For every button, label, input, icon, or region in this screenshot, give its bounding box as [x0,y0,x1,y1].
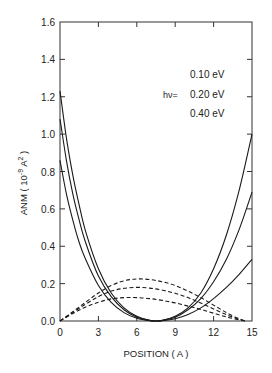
x-tick-label: 0 [57,327,63,338]
legend-entry-3: 0.40 eV [190,108,225,119]
y-tick-label: 0.6 [41,204,55,215]
x-tick-label: 15 [246,327,258,338]
data-series [60,91,252,321]
y-axis-title: ANM ( 10-9 A2 ) [17,151,29,216]
y-title-end: ) [18,151,29,157]
x-tick-label: 3 [96,327,102,338]
y-tick-label: 0.0 [41,316,55,327]
y-tick-label: 1.2 [41,92,55,103]
legend-prefix: hν= [163,90,178,100]
series-dashed-2 [60,287,246,321]
x-tick-label: 12 [208,327,220,338]
legend: 0.10 eV hν= 0.20 eV 0.40 eV [163,69,225,119]
y-title-main: ANM ( 10 [18,175,29,215]
legend-entry-1: 0.10 eV [190,69,225,80]
y-tick-label: 1.6 [41,17,55,28]
y-tick-label: 0.2 [41,279,55,290]
x-tick-label: 9 [172,327,178,338]
y-tick-label: 1.4 [41,54,55,65]
x-axis-title: POSITION ( A ) [124,348,189,359]
legend-entry-2: 0.20 eV [190,89,225,100]
y-tick-label: 1.0 [41,129,55,140]
y-tick-label: 0.4 [41,241,55,252]
chart-canvas: 036912150.00.20.40.60.81.01.21.41.6 0.10… [0,0,272,373]
series-solid-1 [60,91,252,321]
plot-frame [60,22,252,321]
axis-ticks [60,22,252,321]
svg-text:ANM ( 10-9 A2 ): ANM ( 10-9 A2 ) [17,151,29,216]
y-tick-label: 0.8 [41,167,55,178]
x-tick-label: 6 [134,327,140,338]
